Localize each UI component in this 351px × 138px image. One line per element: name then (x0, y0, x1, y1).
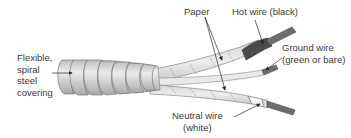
paper-arrow-upper (205, 17, 222, 60)
bx-cable-diagram: Flexible, spiral steel covering Paper Ho… (0, 0, 351, 138)
spiral-steel-armor (58, 60, 160, 95)
label-neutral-wire: Neutral wire (white) (172, 110, 223, 133)
label-paper: Paper (184, 6, 209, 18)
label-steel-covering: Flexible, spiral steel covering (17, 52, 53, 98)
label-ground-wire: Ground wire (green or bare) (282, 42, 345, 65)
label-hot-wire: Hot wire (black) (232, 6, 298, 18)
neutral-wire-arrow (234, 104, 260, 117)
hot-wire (150, 27, 296, 82)
